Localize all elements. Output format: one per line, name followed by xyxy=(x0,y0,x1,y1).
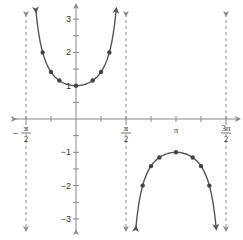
x-tick-label-denominator: 2 xyxy=(224,134,229,144)
data-point xyxy=(40,50,44,54)
x-axis xyxy=(14,116,238,122)
data-point xyxy=(190,155,194,159)
sec-graph: π2−π2π3π2321−1−2−3 xyxy=(0,0,243,240)
data-point xyxy=(174,150,178,154)
data-point xyxy=(207,183,211,187)
y-tick-label: −2 xyxy=(61,181,71,191)
x-tick-label-denominator: 2 xyxy=(124,134,129,144)
x-tick-label-numerator: π xyxy=(24,123,29,133)
y-tick-label: −1 xyxy=(61,147,71,157)
data-point xyxy=(90,78,94,82)
x-tick-label-denominator: 2 xyxy=(24,134,29,144)
data-point xyxy=(199,164,203,168)
y-tick-label: 3 xyxy=(66,14,71,24)
data-point xyxy=(107,50,111,54)
data-point xyxy=(140,183,144,187)
x-tick-label-sign: − xyxy=(13,128,18,138)
data-point xyxy=(74,84,78,88)
data-point xyxy=(49,70,53,74)
data-point xyxy=(99,70,103,74)
x-tick-label-numerator: 3π xyxy=(221,123,231,133)
x-tick-label: π xyxy=(174,125,179,135)
data-point xyxy=(149,164,153,168)
data-point xyxy=(157,155,161,159)
y-tick-label: 1 xyxy=(66,81,71,91)
y-tick-label: 2 xyxy=(66,47,71,57)
y-tick-label: −3 xyxy=(61,214,71,224)
x-tick-label-numerator: π xyxy=(124,123,129,133)
curve-branch-2 xyxy=(136,152,216,228)
data-point xyxy=(57,78,61,82)
